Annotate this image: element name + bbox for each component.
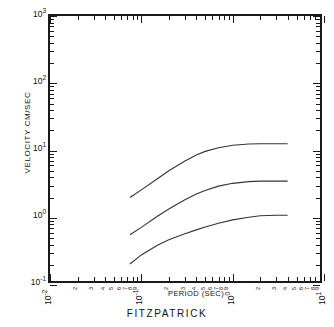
x-minor-tick-label: 2: [256, 287, 262, 290]
x-minor-tick-label: 4: [283, 287, 289, 290]
data-curves: [50, 16, 324, 285]
x-minor-tick-label: 5: [292, 287, 298, 290]
x-minor-tick-label: 9: [315, 287, 321, 290]
curve-middle: [130, 181, 288, 235]
x-tick-label-1e0: 100: [227, 292, 236, 305]
x-axis-title: PERIOD (SEC): [168, 289, 224, 298]
x-tick-label-1e-1: 10-1: [135, 290, 144, 305]
y-tick-label-0.1: 10-1: [20, 278, 46, 287]
x-minor-tick-label: 2: [73, 287, 79, 290]
x-minor-tick-label: 9: [133, 287, 139, 290]
x-minor-tick-label: 3: [89, 287, 95, 290]
figure-caption: FITZPATRICK: [0, 308, 334, 319]
y-major-tick: [50, 285, 57, 286]
curve-lower: [130, 215, 288, 264]
x-minor-tick-label: 9: [224, 287, 230, 290]
chart-figure: 103 102 101 100 10-1 VELOCITY CM/SEC 10-…: [0, 0, 334, 327]
y-tick-label-1000: 103: [20, 10, 46, 19]
x-major-tick: [324, 274, 325, 281]
x-tick-label-1e1: 101: [318, 292, 327, 305]
y-axis-title: VELOCITY CM/SEC: [23, 78, 32, 188]
x-minor-tick-label: 4: [101, 287, 107, 290]
y-major-tick-right: [313, 285, 320, 286]
y-tick-label-1: 100: [20, 211, 46, 220]
plot-area: [48, 14, 322, 283]
x-minor-tick-label: 5: [109, 287, 115, 290]
x-tick-label-1e-2: 10-2: [44, 290, 53, 305]
x-major-tick-top: [324, 16, 325, 23]
x-minor-tick-label: 3: [272, 287, 278, 290]
